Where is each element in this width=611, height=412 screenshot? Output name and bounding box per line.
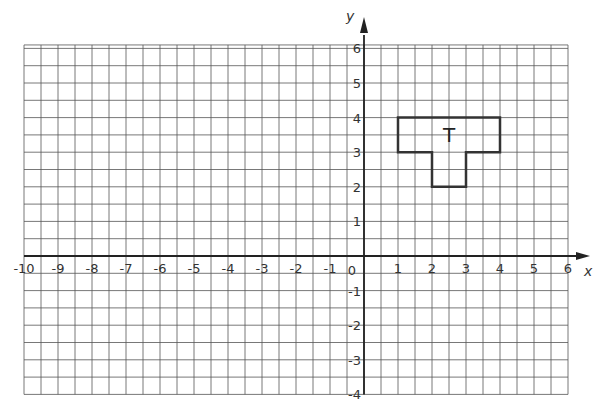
y-tick-label: 6	[353, 41, 361, 56]
y-axis-arrow-icon	[360, 17, 368, 33]
y-tick-label: 3	[353, 145, 361, 160]
shape-t-label: T	[442, 123, 456, 147]
x-tick-label: 6	[564, 261, 572, 276]
y-tick-label: 2	[353, 180, 361, 195]
y-tick-label: -4	[348, 387, 361, 402]
x-tick-label: 5	[530, 261, 538, 276]
x-tick-label: 3	[462, 261, 470, 276]
x-tick-label: 2	[428, 261, 436, 276]
x-tick-label: -1	[324, 261, 337, 276]
x-tick-label: 1	[394, 261, 402, 276]
tick-labels: -10-9-8-7-6-5-4-3-2-10123456-4-3-2-11234…	[13, 41, 572, 402]
y-tick-label: -1	[348, 284, 361, 299]
x-tick-label: -4	[222, 261, 235, 276]
x-tick-label: 4	[496, 261, 504, 276]
y-tick-label: 4	[353, 111, 361, 126]
y-tick-label: -3	[348, 353, 361, 368]
origin-label: 0	[348, 263, 356, 278]
y-tick-label: 1	[353, 214, 361, 229]
x-axis-label: x	[583, 263, 593, 279]
x-tick-label: -6	[154, 261, 167, 276]
x-tick-label: -8	[86, 261, 99, 276]
y-axis-label: y	[345, 8, 355, 24]
x-tick-label: -3	[256, 261, 269, 276]
x-tick-label: -5	[188, 261, 201, 276]
coordinate-grid: -10-9-8-7-6-5-4-3-2-10123456-4-3-2-11234…	[0, 0, 611, 412]
y-tick-label: 5	[353, 76, 361, 91]
x-tick-label: -2	[290, 261, 303, 276]
grid-lines	[24, 45, 568, 394]
x-axis-arrow-icon	[576, 252, 590, 260]
x-tick-label: -7	[120, 261, 133, 276]
x-tick-label: -9	[52, 261, 65, 276]
y-tick-label: -2	[348, 318, 361, 333]
x-tick-label: -10	[13, 261, 34, 276]
